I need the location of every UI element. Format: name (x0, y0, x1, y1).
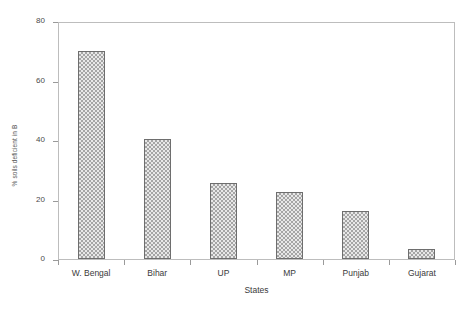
bar-slot (388, 23, 454, 259)
y-axis-tick-label: 60 (36, 76, 45, 85)
bar (210, 183, 237, 259)
x-axis-category-label: W. Bengal (58, 268, 124, 282)
bar-slot (256, 23, 322, 259)
x-axis-tick-mark (124, 260, 125, 265)
x-axis-tick-mark (389, 260, 390, 265)
bar (144, 139, 171, 259)
x-axis-tick-mark (455, 260, 456, 265)
x-axis-category-label: Punjab (323, 268, 389, 282)
x-axis-tick-mark (323, 260, 324, 265)
bar-slot (322, 23, 388, 259)
y-axis-tick-label: 20 (36, 195, 45, 204)
bar-slot (125, 23, 191, 259)
x-axis-tick-mark (58, 260, 59, 265)
bar-slot (191, 23, 257, 259)
y-axis-tick-label: 40 (36, 135, 45, 144)
bar (408, 249, 435, 259)
y-axis-tick-label: 80 (36, 16, 45, 25)
x-axis-category-label: UP (190, 268, 256, 282)
x-axis-labels: W. BengalBiharUPMPPunjabGujarat (58, 268, 455, 282)
bars-layer (59, 23, 454, 259)
bar-chart-figure: % soils deficient in B 020406080 W. Beng… (0, 0, 470, 311)
y-axis-tick-label: 0 (41, 254, 45, 263)
x-axis-tick-mark (190, 260, 191, 265)
x-axis-category-label: MP (257, 268, 323, 282)
bar (276, 192, 303, 259)
x-axis-ticks (58, 260, 455, 266)
bar (342, 211, 369, 259)
x-axis-category-label: Bihar (124, 268, 190, 282)
x-axis-category-label: Gujarat (389, 268, 455, 282)
x-axis-tick-mark (257, 260, 258, 265)
x-axis-title: States (58, 285, 455, 295)
plot-area (58, 22, 455, 260)
y-axis-title: % soils deficient in B (0, 0, 28, 311)
bar (78, 51, 105, 259)
bar-slot (59, 23, 125, 259)
